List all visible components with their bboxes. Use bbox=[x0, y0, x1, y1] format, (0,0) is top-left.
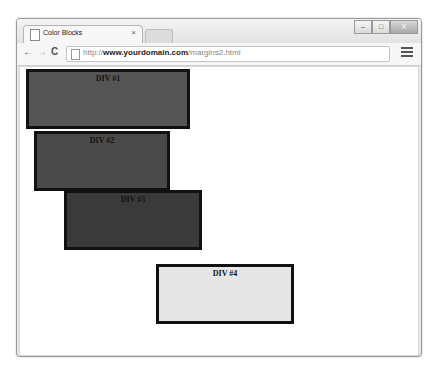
window-controls: ‒ □ X bbox=[354, 20, 418, 34]
forward-icon[interactable]: → bbox=[37, 46, 47, 57]
reload-icon[interactable]: C bbox=[51, 46, 58, 57]
tab-title: Color Blocks bbox=[43, 29, 82, 36]
menu-icon[interactable] bbox=[401, 47, 413, 57]
block-label: DIV #3 bbox=[121, 195, 146, 204]
url-path: /margins2.html bbox=[188, 48, 240, 57]
div-block-2: DIV #2 bbox=[34, 131, 170, 191]
div-block-4: DIV #4 bbox=[156, 264, 294, 324]
close-button[interactable]: X bbox=[390, 20, 418, 34]
minimize-button[interactable]: ‒ bbox=[354, 20, 372, 34]
new-tab-button[interactable] bbox=[145, 29, 173, 43]
url-host: www.yourdomain.com bbox=[103, 48, 188, 57]
page-icon bbox=[71, 49, 80, 60]
url-scheme: http:// bbox=[83, 48, 103, 57]
block-label: DIV #2 bbox=[90, 136, 115, 145]
block-label: DIV #4 bbox=[213, 269, 238, 278]
block-label: DIV #1 bbox=[96, 74, 121, 83]
tab-color-blocks[interactable]: Color Blocks × bbox=[23, 25, 143, 44]
url-text: http://www.yourdomain.com/margins2.html bbox=[83, 48, 241, 57]
back-icon[interactable]: ← bbox=[23, 46, 33, 57]
title-bar: Color Blocks × ‒ □ X bbox=[17, 19, 421, 43]
page-icon bbox=[30, 29, 40, 41]
div-block-3: DIV #3 bbox=[64, 190, 202, 250]
browser-window: Color Blocks × ‒ □ X ← → C http://www.yo… bbox=[16, 18, 422, 357]
div-block-1: DIV #1 bbox=[26, 69, 190, 129]
tab-close-button[interactable]: × bbox=[131, 28, 136, 37]
browser-toolbar: ← → C http://www.yourdomain.com/margins2… bbox=[17, 43, 421, 66]
maximize-button[interactable]: □ bbox=[372, 20, 390, 34]
page-content: DIV #1 DIV #2 DIV #3 DIV #4 bbox=[19, 66, 419, 356]
address-bar[interactable]: http://www.yourdomain.com/margins2.html bbox=[66, 46, 390, 62]
